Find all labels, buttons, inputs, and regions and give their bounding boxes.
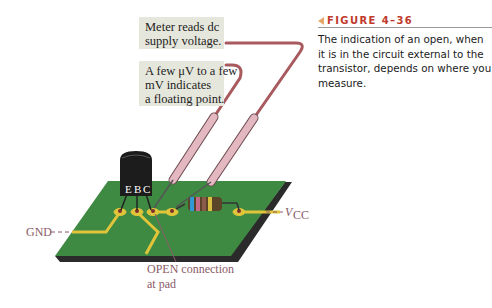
callout-floating-point: A few μV to a few mV indicates a floatin… [139, 61, 224, 106]
caption-line-1: The indication of an open, when [318, 32, 492, 47]
vcc-subscript: CC [293, 208, 309, 222]
figure-header: FIGURE 4–36 [318, 15, 492, 28]
triangle-left-icon [318, 17, 324, 25]
figure-caption: FIGURE 4–36 The indication of an open, w… [318, 15, 492, 90]
callout-floating-line3: a floating point. [145, 92, 219, 106]
pcb-board [55, 181, 286, 256]
caption-line-3: transistor, depends on where you [318, 61, 492, 76]
gnd-label: GND [26, 225, 52, 239]
callout-floating-line1: A few μV to a few [145, 64, 219, 78]
pin-label-e: E [125, 183, 132, 195]
caption-line-4: measure. [318, 76, 492, 91]
figure-description: The indication of an open, when it is in… [318, 32, 492, 90]
caption-line-2: it is in the circuit external to the [318, 47, 492, 62]
callout-meter-line1: Meter reads dc [145, 20, 219, 34]
open-label-line1: OPEN connection [147, 262, 234, 276]
callout-meter-dc: Meter reads dc supply voltage. [139, 17, 224, 49]
figure-number: FIGURE 4–36 [327, 15, 413, 26]
pin-label-c: C [143, 183, 150, 195]
callout-meter-line2: supply voltage. [145, 34, 219, 48]
open-label-line2: at pad [147, 277, 176, 291]
callout-floating-line2: mV indicates [145, 78, 219, 92]
pin-label-b: B [134, 183, 141, 195]
probe-leads [214, 43, 302, 118]
